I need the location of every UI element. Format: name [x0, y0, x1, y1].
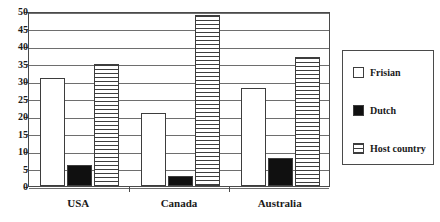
bar: [195, 15, 220, 187]
bar: [141, 113, 166, 187]
legend-label: Frisian: [370, 67, 401, 78]
bar: [67, 165, 92, 186]
legend-item: Host country: [353, 143, 426, 154]
bar: [168, 176, 193, 187]
legend-label: Dutch: [370, 105, 396, 116]
y-tick-label: 50: [6, 7, 28, 17]
y-axis: 05101520253035404550: [0, 12, 28, 187]
y-tick-label: 10: [6, 147, 28, 157]
y-tick-label: 0: [6, 182, 28, 192]
x-category-label: USA: [28, 197, 129, 209]
x-axis: USACanadaAustralia: [28, 187, 330, 222]
y-tick-label: 5: [6, 165, 28, 175]
y-tick-label: 15: [6, 130, 28, 140]
bar-group: [40, 13, 119, 186]
legend-swatch-icon: [353, 67, 364, 78]
legend-swatch-icon: [353, 105, 364, 116]
y-tick-label: 45: [6, 25, 28, 35]
legend-item: Dutch: [353, 105, 396, 116]
y-tick-label: 30: [6, 77, 28, 87]
y-tick-label: 35: [6, 60, 28, 70]
bar: [94, 64, 119, 187]
bar: [295, 57, 320, 187]
bar: [241, 88, 266, 186]
plot-area: [28, 12, 330, 187]
legend-item: Frisian: [353, 67, 401, 78]
bar-group: [241, 13, 320, 186]
bar-group: [141, 13, 220, 186]
bar-chart-figure: 05101520253035404550 USACanadaAustralia …: [0, 0, 440, 222]
x-category-label: Canada: [129, 197, 230, 209]
bar: [268, 158, 293, 186]
bar: [40, 78, 65, 187]
chart-legend: FrisianDutchHost country: [342, 50, 434, 165]
y-tick-label: 25: [6, 95, 28, 105]
x-tick-mark: [129, 187, 130, 192]
legend-swatch-icon: [353, 143, 364, 154]
x-tick-mark: [229, 187, 230, 192]
x-category-label: Australia: [229, 197, 330, 209]
y-tick-label: 20: [6, 112, 28, 122]
legend-label: Host country: [370, 143, 426, 154]
y-tick-label: 40: [6, 42, 28, 52]
